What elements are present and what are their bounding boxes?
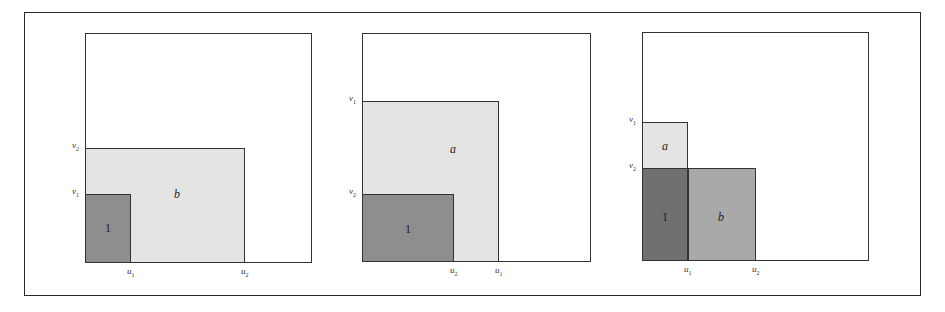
y-axis-label: v1	[72, 186, 79, 198]
axis-subscript: 1	[633, 120, 636, 126]
axis-subscript: 1	[689, 270, 692, 276]
region-a-label: a	[450, 142, 456, 157]
x-axis-label: u2	[752, 264, 760, 276]
axis-subscript: 2	[246, 272, 249, 278]
region-1-label: 1	[405, 222, 411, 237]
axis-subscript: 2	[633, 166, 636, 172]
axis-subscript: 1	[353, 99, 356, 105]
axis-subscript: 1	[76, 192, 79, 198]
y-axis-label: v1	[349, 93, 356, 105]
region-1-label: 1	[662, 210, 668, 225]
region-1-label: 1	[105, 221, 111, 236]
axis-subscript: 2	[353, 192, 356, 198]
axis-subscript: 2	[455, 271, 458, 277]
x-axis-label: u1	[684, 264, 692, 276]
x-axis-label: u2	[450, 265, 458, 277]
axis-subscript: 1	[132, 272, 135, 278]
region-b-label: b	[174, 187, 180, 202]
y-axis-label: v2	[349, 186, 356, 198]
region-b-label: b	[718, 210, 724, 225]
x-axis-label: u1	[495, 265, 503, 277]
x-axis-label: u2	[241, 266, 249, 278]
x-axis-label: u1	[127, 266, 135, 278]
y-axis-label: v2	[72, 140, 79, 152]
y-axis-label: v2	[629, 160, 636, 172]
axis-subscript: 2	[757, 270, 760, 276]
axis-subscript: 2	[76, 146, 79, 152]
y-axis-label: v1	[629, 114, 636, 126]
axis-subscript: 1	[500, 271, 503, 277]
region-a-label: a	[662, 139, 668, 154]
